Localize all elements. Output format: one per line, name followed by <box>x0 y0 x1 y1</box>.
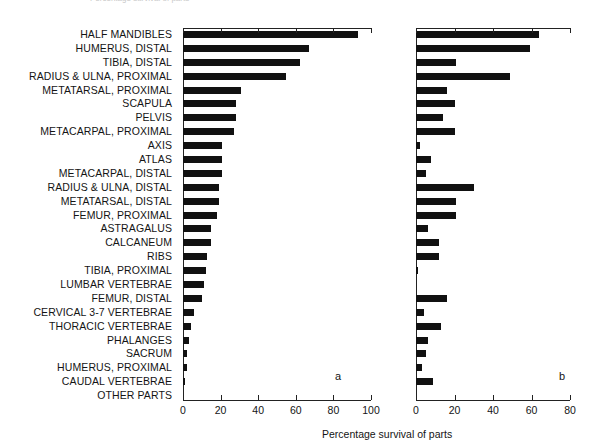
bar <box>183 100 236 107</box>
bar-row <box>416 292 570 306</box>
axis-tick-top <box>296 28 297 33</box>
category-label: SCAPULA <box>0 97 178 111</box>
bar <box>183 170 222 177</box>
bar <box>183 323 191 330</box>
category-label: ATLAS <box>0 153 178 167</box>
bar-row <box>183 347 371 361</box>
bar <box>416 59 456 66</box>
bar-row <box>416 320 570 334</box>
bar <box>183 212 217 219</box>
bar-row <box>183 70 371 84</box>
category-label: CERVICAL 3-7 VERTEBRAE <box>0 306 178 320</box>
bar-row <box>183 209 371 223</box>
axis-tick-top <box>532 28 533 33</box>
bar-row <box>416 361 570 375</box>
category-label: TIBIA, PROXIMAL <box>0 264 178 278</box>
category-label: PHALANGES <box>0 334 178 348</box>
category-label: TIBIA, DISTAL <box>0 56 178 70</box>
category-label: AXIS <box>0 139 178 153</box>
category-label: THORACIC VERTEBRAE <box>0 320 178 334</box>
bar <box>416 239 439 246</box>
bar <box>416 225 428 232</box>
bar-row <box>416 334 570 348</box>
bar-row <box>183 28 371 42</box>
bar-row <box>183 306 371 320</box>
category-label: METATARSAL, PROXIMAL <box>0 84 178 98</box>
bar-row <box>416 278 570 292</box>
bar <box>183 73 286 80</box>
bar <box>183 128 234 135</box>
category-label: HUMERUS, DISTAL <box>0 42 178 56</box>
bar <box>416 323 441 330</box>
bar-row <box>416 153 570 167</box>
bar <box>416 198 456 205</box>
axis-tick-bottom <box>455 395 456 400</box>
bar <box>183 309 194 316</box>
bar <box>183 225 211 232</box>
bar-row <box>183 111 371 125</box>
axis-tick-bottom <box>416 395 417 400</box>
axis-tick-bottom <box>532 395 533 400</box>
bar-row <box>183 320 371 334</box>
bar <box>416 378 433 385</box>
bar <box>416 309 424 316</box>
bar-row <box>416 84 570 98</box>
bar <box>416 295 447 302</box>
bar-row <box>183 292 371 306</box>
bar <box>416 73 510 80</box>
bar <box>183 184 219 191</box>
category-label: CAUDAL VERTEBRAE <box>0 375 178 389</box>
bar-row <box>183 361 371 375</box>
bar-row <box>416 250 570 264</box>
bar-row <box>183 236 371 250</box>
figure-root: Percentage survival of parts HALF MANDIB… <box>0 0 595 447</box>
bar <box>183 267 206 274</box>
bar <box>183 114 236 121</box>
bar-row <box>183 153 371 167</box>
axis-tick-label: 0 <box>168 404 198 416</box>
axis-tick-top <box>493 28 494 33</box>
bar <box>183 31 358 38</box>
axis-tick-bottom <box>493 395 494 400</box>
axis-tick-bottom <box>296 395 297 400</box>
bar <box>416 337 428 344</box>
bar-row <box>416 375 570 389</box>
bar <box>416 114 443 121</box>
axis-tick-top <box>371 28 372 33</box>
category-label: METACARPAL, PROXIMAL <box>0 125 178 139</box>
category-label: METACARPAL, DISTAL <box>0 167 178 181</box>
bar-row <box>416 42 570 56</box>
bar-row <box>416 181 570 195</box>
bar <box>416 170 426 177</box>
axis-tick-label: 80 <box>555 404 585 416</box>
bar-row <box>183 97 371 111</box>
panel-b-letter: b <box>559 370 565 382</box>
axis-tick-label: 0 <box>401 404 431 416</box>
axis-tick-top <box>333 28 334 33</box>
category-label: FEMUR, DISTAL <box>0 292 178 306</box>
axis-tick-bottom <box>183 395 184 400</box>
bar <box>416 364 422 371</box>
panel-a-letter: a <box>335 370 341 382</box>
bar-row <box>183 84 371 98</box>
axis-tick-top <box>570 28 571 33</box>
bar <box>183 281 204 288</box>
panel-b-bars <box>416 28 570 403</box>
category-label: FEMUR, PROXIMAL <box>0 209 178 223</box>
bar <box>416 212 456 219</box>
bar-row <box>416 111 570 125</box>
bar <box>183 295 202 302</box>
bar-row <box>416 195 570 209</box>
bar-row <box>183 264 371 278</box>
axis-tick-bottom <box>333 395 334 400</box>
bar <box>416 253 439 260</box>
category-label: RADIUS & ULNA, DISTAL <box>0 181 178 195</box>
axis-tick-bottom <box>570 395 571 400</box>
category-label: OTHER PARTS <box>0 389 178 403</box>
bar-row <box>183 278 371 292</box>
bar <box>183 59 300 66</box>
bar-row <box>183 222 371 236</box>
bar-row <box>183 125 371 139</box>
bar <box>416 267 418 274</box>
axis-tick-top <box>221 28 222 33</box>
